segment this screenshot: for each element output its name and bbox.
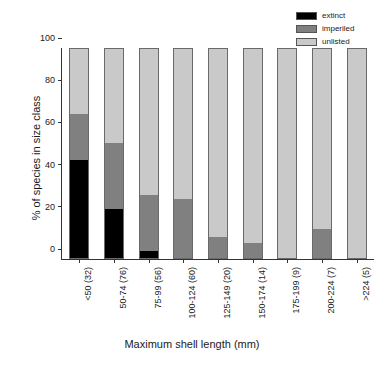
bar-group [235, 48, 270, 259]
x-tick-mark [79, 259, 80, 263]
x-tick-mark [218, 259, 219, 263]
stacked-bar[interactable] [69, 48, 89, 259]
bar-segment-imperiled [244, 243, 262, 258]
stacked-bar[interactable] [347, 48, 367, 259]
y-axis-tick: 100 [40, 33, 62, 43]
bar-group [97, 48, 132, 259]
chart-legend: extinct imperiled unlisted [296, 10, 378, 49]
y-tick-label: 20 [45, 202, 55, 212]
y-axis-tick: 80 [45, 75, 62, 85]
legend-label-imperiled: imperiled [322, 24, 354, 33]
legend-label-unlisted: unlisted [322, 37, 350, 46]
legend-label-extinct: extinct [322, 11, 345, 20]
x-tick-label: 175-199 (9) [291, 267, 301, 314]
x-tick-mark [183, 259, 184, 263]
bar-group [270, 48, 305, 259]
bar-segment-unlisted [140, 49, 158, 195]
bar-segment-imperiled [140, 195, 158, 250]
x-tick-mark [322, 259, 323, 263]
legend-item-unlisted: unlisted [296, 36, 378, 47]
bar-segment-unlisted [313, 49, 331, 229]
bar-segment-extinct [70, 160, 88, 258]
stacked-bar[interactable] [139, 48, 159, 259]
stacked-bar[interactable] [312, 48, 332, 259]
x-tick-mark [114, 259, 115, 263]
y-tick-label: 80 [45, 75, 55, 85]
bar-segment-extinct [105, 209, 123, 258]
y-axis-title: % of species in size class [30, 58, 42, 258]
legend-swatch-extinct [296, 12, 317, 20]
bar-segment-unlisted [174, 49, 192, 199]
legend-item-extinct: extinct [296, 10, 378, 21]
x-tick-mark [287, 259, 288, 263]
bar-segment-unlisted [105, 49, 123, 143]
legend-item-imperiled: imperiled [296, 23, 378, 34]
x-tick-label: 100-124 (60) [187, 267, 197, 319]
y-tick-label: 0 [50, 244, 55, 254]
bar-segment-imperiled [209, 237, 227, 258]
bar-group [339, 48, 374, 259]
bar-segment-unlisted [244, 49, 262, 243]
x-tick-label: 125-149 (20) [222, 267, 232, 319]
legend-swatch-imperiled [296, 25, 317, 33]
x-tick-mark [253, 259, 254, 263]
stacked-bar[interactable] [243, 48, 263, 259]
x-tick-label: 50-74 (76) [118, 267, 128, 309]
stacked-bar[interactable] [173, 48, 193, 259]
y-tick-label: 60 [45, 117, 55, 127]
bar-segment-extinct [140, 251, 158, 258]
stacked-bar[interactable] [208, 48, 228, 259]
y-axis-tick: 60 [45, 117, 62, 127]
y-tick-mark [58, 38, 62, 39]
bar-group [166, 48, 201, 259]
bar-segment-imperiled [313, 229, 331, 258]
x-tick-label: 150-174 (14) [257, 267, 267, 319]
bar-segment-imperiled [174, 199, 192, 258]
x-tick-label: 75-99 (56) [153, 267, 163, 309]
bar-group [305, 48, 340, 259]
bar-group [201, 48, 236, 259]
y-axis-tick: 20 [45, 202, 62, 212]
plot-inner: 020406080100<50 (32)50-74 (76)75-99 (56)… [62, 48, 374, 259]
bar-segment-unlisted [209, 49, 227, 237]
bar-segment-imperiled [70, 114, 88, 160]
y-axis-tick: 0 [50, 244, 62, 254]
bar-group [131, 48, 166, 259]
x-tick-mark [357, 259, 358, 263]
y-tick-label: 100 [40, 33, 55, 43]
x-tick-mark [149, 259, 150, 263]
x-axis-title: Maximum shell length (mm) [0, 338, 384, 350]
bar-segment-unlisted [348, 49, 366, 258]
bar-segment-imperiled [105, 143, 123, 209]
legend-swatch-unlisted [296, 38, 317, 46]
y-tick-label: 40 [45, 160, 55, 170]
stacked-bar[interactable] [104, 48, 124, 259]
y-axis-tick: 40 [45, 160, 62, 170]
plot-area: 020406080100<50 (32)50-74 (76)75-99 (56)… [61, 48, 374, 260]
x-tick-label: 200-224 (7) [326, 267, 336, 314]
x-tick-label: >224 (5) [361, 267, 371, 301]
bar-segment-unlisted [70, 49, 88, 114]
stacked-bar[interactable] [277, 48, 297, 259]
x-tick-label: <50 (32) [83, 267, 93, 301]
bar-group [62, 48, 97, 259]
bar-segment-unlisted [278, 49, 296, 258]
